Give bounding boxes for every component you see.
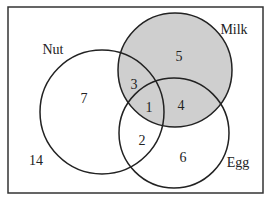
label-nut: Nut [43,43,64,57]
label-milk: Milk [220,23,247,37]
region-egg-only: 6 [180,151,187,165]
milk-circle [118,13,232,127]
region-all-three: 1 [146,101,153,115]
label-egg: Egg [227,156,250,170]
region-milk-only: 5 [176,50,183,64]
region-milk-egg: 4 [178,99,185,113]
region-nut-egg: 2 [139,134,146,148]
region-outside: 14 [29,154,43,168]
region-nut-milk: 3 [131,78,138,92]
region-nut-only: 7 [81,92,88,106]
